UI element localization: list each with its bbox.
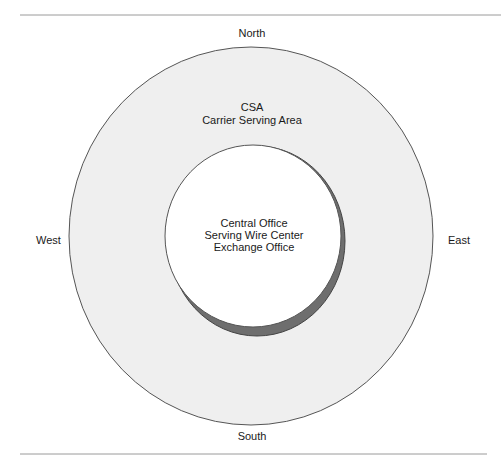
csa-subtitle: Carrier Serving Area [202,114,302,127]
north-label: North [239,27,266,40]
east-label: East [448,234,470,247]
central-office-line3: Exchange Office [214,241,295,254]
csa-title: CSA [241,101,264,114]
west-label: West [36,234,61,247]
south-label: South [238,430,267,443]
